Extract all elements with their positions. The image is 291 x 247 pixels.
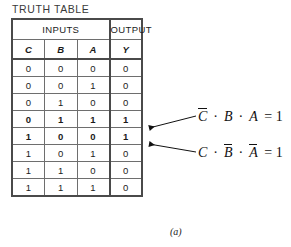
- and-operator: ·: [211, 109, 221, 124]
- cell-a: 1: [77, 145, 110, 162]
- cell-a: 0: [77, 94, 110, 111]
- variable-a-bar: A: [249, 144, 258, 161]
- group-header-output: OUTPUT: [110, 19, 143, 40]
- cell-c: 0: [12, 59, 45, 77]
- annotation-minterm-1: C · B · A = 1: [198, 108, 283, 125]
- variable-b: B: [224, 109, 233, 124]
- cell-y: 0: [110, 162, 143, 179]
- cell-b: 0: [45, 128, 78, 145]
- table-row: 0 0 0 0: [12, 59, 142, 77]
- table-row: 0 1 0 0: [12, 94, 142, 111]
- cell-y: 1: [110, 128, 143, 145]
- cell-y: 0: [110, 94, 143, 111]
- cell-c: 0: [12, 77, 45, 94]
- cell-a: 1: [77, 179, 110, 197]
- cell-a: 0: [77, 128, 110, 145]
- column-header-c: C: [12, 40, 45, 60]
- cell-y: 1: [110, 111, 143, 128]
- annotation-minterm-2: C · B · A = 1: [198, 144, 283, 161]
- table-row: 1 1 0 0: [12, 162, 142, 179]
- table-group-header-row: INPUTS OUTPUT: [12, 19, 142, 40]
- cell-b: 1: [45, 111, 78, 128]
- table-column-header-row: C B A Y: [12, 40, 142, 60]
- group-header-inputs: INPUTS: [12, 19, 110, 40]
- cell-b: 0: [45, 77, 78, 94]
- cell-c: 1: [12, 128, 45, 145]
- cell-b: 0: [45, 59, 78, 77]
- table-row-highlighted: 1 0 0 1: [12, 128, 142, 145]
- table-row: 1 0 1 0: [12, 145, 142, 162]
- cell-c: 1: [12, 162, 45, 179]
- cell-a: 0: [77, 59, 110, 77]
- table-row: 1 1 1 0: [12, 179, 142, 197]
- cell-b: 0: [45, 145, 78, 162]
- annotation-arrows: [146, 100, 201, 172]
- equals-expression: = 1: [261, 145, 282, 160]
- column-header-a: A: [77, 40, 110, 60]
- variable-c-bar: C: [198, 108, 207, 125]
- cell-a: 1: [77, 77, 110, 94]
- and-operator: ·: [211, 145, 221, 160]
- cell-b: 1: [45, 162, 78, 179]
- cell-y: 0: [110, 77, 143, 94]
- cell-c: 0: [12, 94, 45, 111]
- cell-y: 0: [110, 179, 143, 197]
- cell-c: 1: [12, 179, 45, 197]
- column-header-b: B: [45, 40, 78, 60]
- cell-y: 0: [110, 59, 143, 77]
- arrow-to-row-5: [149, 144, 196, 152]
- table-row: 0 0 1 0: [12, 77, 142, 94]
- variable-a: A: [249, 109, 258, 124]
- arrow-to-row-4: [149, 116, 196, 128]
- cell-a: 1: [77, 111, 110, 128]
- variable-b-bar: B: [224, 144, 233, 161]
- cell-b: 1: [45, 179, 78, 197]
- cell-y: 0: [110, 145, 143, 162]
- figure-caption: (a): [170, 226, 182, 237]
- truth-table-body: INPUTS OUTPUT C B A Y 0 0 0 0 0 0 1 0: [12, 19, 142, 196]
- truth-table-container: INPUTS OUTPUT C B A Y 0 0 0 0 0 0 1 0: [11, 18, 143, 197]
- table-row-highlighted: 0 1 1 1: [12, 111, 142, 128]
- variable-c: C: [198, 145, 207, 160]
- cell-a: 0: [77, 162, 110, 179]
- cell-c: 1: [12, 145, 45, 162]
- and-operator: ·: [236, 109, 246, 124]
- cell-c: 0: [12, 111, 45, 128]
- truth-table: INPUTS OUTPUT C B A Y 0 0 0 0 0 0 1 0: [11, 18, 143, 197]
- and-operator: ·: [236, 145, 246, 160]
- equals-expression: = 1: [261, 109, 282, 124]
- page-title: TRUTH TABLE: [12, 3, 89, 15]
- column-header-y: Y: [110, 40, 143, 60]
- cell-b: 1: [45, 94, 78, 111]
